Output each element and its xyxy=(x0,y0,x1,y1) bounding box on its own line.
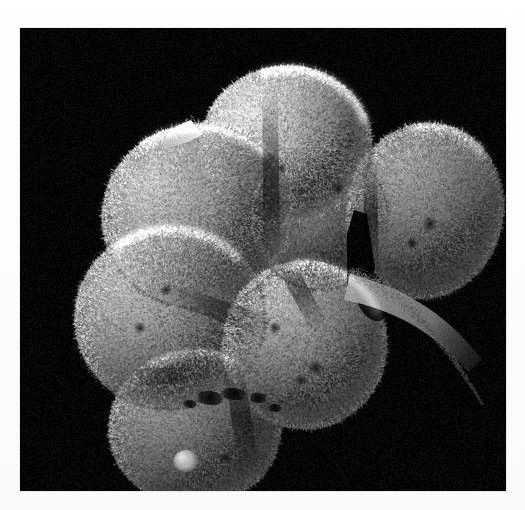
micrograph-plate xyxy=(20,28,506,491)
figure-caption xyxy=(20,492,506,508)
figure-root xyxy=(0,0,525,510)
sem-micrograph-image xyxy=(20,28,506,491)
